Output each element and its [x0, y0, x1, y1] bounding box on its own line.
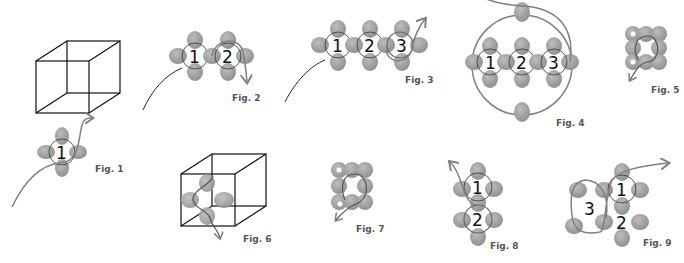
- figure-label: Fig. 1: [95, 164, 124, 174]
- unit-number: 1: [472, 178, 483, 198]
- unit-number: 2: [516, 53, 527, 73]
- figure-9: 1 2 3 Fig. 9: [565, 163, 672, 248]
- unit-number: 3: [548, 53, 559, 73]
- bead-unit-3: 3: [529, 37, 579, 88]
- unit-number: 1: [56, 143, 67, 163]
- figure-label: Fig. 7: [356, 224, 385, 234]
- figure-2: 1 2 Fig. 2: [143, 31, 261, 110]
- cube-icon: [181, 154, 266, 226]
- figure-label: Fig. 5: [651, 85, 680, 95]
- figure-label: Fig. 9: [643, 238, 672, 248]
- unit-number: 2: [616, 213, 627, 233]
- beading-diagram: 1 Fig. 1 1 2 Fig. 2: [0, 0, 684, 263]
- figure-8: 1 2 Fig. 8: [450, 162, 519, 251]
- figure-3: 1 2 3 Fig. 3: [285, 19, 434, 102]
- figure-5: Fig. 5: [625, 26, 680, 95]
- figure-6: Fig. 6: [181, 154, 272, 244]
- unit-number: 3: [396, 36, 407, 56]
- figure-label: Fig. 2: [232, 93, 261, 103]
- unit-number: 2: [472, 210, 483, 230]
- thread-path: [143, 68, 182, 110]
- figure-7: Fig. 7: [331, 162, 385, 234]
- bead-unit-3: 3: [377, 20, 428, 71]
- unit-number: 1: [616, 180, 627, 200]
- figure-1: 1 Fig. 1: [12, 41, 124, 207]
- figure-label: Fig. 8: [490, 241, 519, 251]
- figure-label: Fig. 6: [243, 234, 272, 244]
- unit-number: 1: [332, 36, 343, 56]
- figure-label: Fig. 3: [405, 75, 434, 85]
- bead-unit-1: 1: [169, 31, 208, 81]
- unit-number: 1: [189, 47, 200, 67]
- unit-number: 2: [364, 36, 375, 56]
- bead-unit-1: 1: [311, 20, 351, 71]
- cube-icon: [36, 41, 120, 113]
- thread-path: [285, 60, 325, 102]
- unit-number: 3: [584, 199, 595, 219]
- thread-path: [12, 118, 92, 207]
- figure-4: 1 2 3 Fig. 4: [465, 0, 585, 128]
- unit-number: 1: [485, 53, 496, 73]
- figure-label: Fig. 4: [556, 118, 585, 128]
- unit-number: 2: [222, 47, 233, 67]
